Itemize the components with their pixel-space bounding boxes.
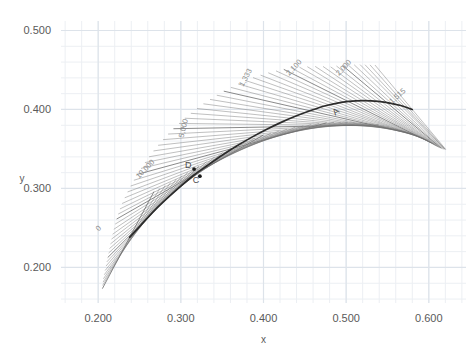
x-tick-label: 0.400	[250, 312, 278, 324]
x-axis-ticks: 0.2000.3000.4000.5000.600	[84, 312, 442, 324]
chart-figure: DCA 010,0005,0001,3332,1002,0001,515 0.2…	[0, 0, 473, 357]
y-axis-title: y	[20, 173, 25, 184]
x-tick-label: 0.300	[167, 312, 195, 324]
point-label: C	[193, 175, 200, 185]
y-tick-label: 0.500	[23, 24, 51, 36]
x-tick-label: 0.500	[332, 312, 360, 324]
plot-canvas: DCA 010,0005,0001,3332,1002,0001,515 0.2…	[0, 0, 473, 357]
x-tick-label: 0.200	[84, 312, 112, 324]
y-tick-label: 0.200	[23, 261, 51, 273]
point-label: D	[185, 160, 192, 170]
y-tick-label: 0.400	[23, 103, 51, 115]
x-axis-title: x	[261, 334, 266, 345]
y-axis-ticks: 0.2000.3000.4000.500	[23, 24, 51, 273]
x-tick-label: 0.600	[415, 312, 443, 324]
data-point	[192, 167, 196, 171]
y-tick-label: 0.300	[23, 182, 51, 194]
